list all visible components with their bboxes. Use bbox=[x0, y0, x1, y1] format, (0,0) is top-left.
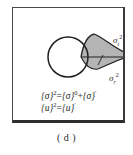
sigma-tangential-subscript: t bbox=[117, 41, 119, 47]
eq2-term2-base: {u} bbox=[62, 103, 74, 113]
figure-container: σt2 σr2 {σ}2={σ}0+{σ}′ {u}2={u}′ ( d ) bbox=[0, 0, 133, 155]
equation-block: {σ}2={σ}0+{σ}′ {u}2={u}′ bbox=[41, 92, 125, 116]
diagram-panel: σt2 σr2 {σ}2={σ}0+{σ}′ {u}2={u}′ bbox=[12, 7, 125, 123]
eq1-term3-base: {σ} bbox=[83, 91, 95, 101]
eq1-term1-base: {σ} bbox=[41, 91, 53, 101]
eq1-term3-sup: ′ bbox=[95, 89, 96, 96]
sigma-radial-superscript: 2 bbox=[116, 72, 119, 78]
eq2-term1-base: {u} bbox=[41, 103, 53, 113]
sigma-radial-label: σr2 bbox=[109, 74, 119, 83]
equation-displacement-decomposition: {u}2={u}′ bbox=[41, 104, 125, 116]
sigma-radial-subscript: r bbox=[113, 79, 115, 85]
eq1-term2-base: {σ} bbox=[62, 91, 74, 101]
sigma-tangential-label: σt2 bbox=[113, 36, 122, 45]
sigma-tangential-superscript: 2 bbox=[119, 34, 122, 40]
eq2-term2-sup: ′ bbox=[74, 101, 75, 108]
radial-stress-curve bbox=[81, 57, 98, 69]
figure-caption: ( d ) bbox=[0, 132, 133, 143]
